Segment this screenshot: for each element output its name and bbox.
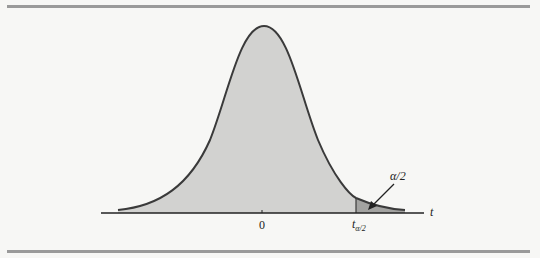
curve-area <box>118 26 356 213</box>
center-tick-label: 0 <box>259 218 265 232</box>
t-distribution-diagram: 0 t tα/2 α/2 <box>0 0 540 258</box>
tail-area-label: α/2 <box>390 169 406 183</box>
tail-arrow <box>372 184 394 206</box>
critical-value-label: tα/2 <box>352 217 366 233</box>
axis-variable-label: t <box>430 205 434 219</box>
